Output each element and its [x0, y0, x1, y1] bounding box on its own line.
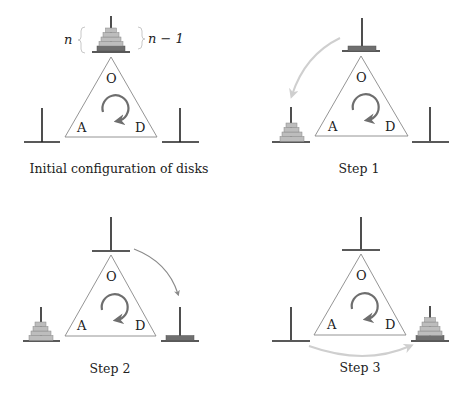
move-arrow-icon	[292, 38, 340, 95]
brace-label-n: n	[64, 32, 72, 47]
peg-destination	[162, 108, 199, 142]
disk	[284, 128, 299, 133]
label-origin: O	[356, 268, 367, 283]
peg-auxiliary	[272, 107, 310, 142]
left-brace-icon	[78, 27, 85, 53]
rotation-arrow-icon	[352, 293, 378, 319]
rotation-arrow-icon	[102, 294, 128, 320]
label-auxiliary: A	[326, 317, 337, 332]
label-destination: D	[135, 120, 145, 135]
peg-destination	[411, 306, 449, 341]
disk	[97, 46, 125, 51]
disk	[348, 46, 376, 51]
peg-origin	[92, 16, 130, 52]
panel-initial: O A D n n − 1 Initial configuration	[24, 16, 208, 176]
label-auxiliary: A	[327, 119, 338, 134]
disk	[422, 322, 438, 327]
label-destination: D	[385, 119, 395, 134]
move-arrow-icon	[309, 346, 410, 356]
caption: Step 2	[90, 361, 131, 376]
disk	[99, 42, 123, 47]
panel-step-2: O A D Step 2	[23, 217, 199, 376]
disk	[280, 137, 304, 142]
label-auxiliary: A	[76, 120, 87, 135]
peg-auxiliary	[24, 108, 60, 142]
peg-auxiliary	[23, 307, 60, 341]
disk	[420, 327, 440, 332]
caption: Step 3	[340, 360, 381, 375]
label-destination: D	[385, 317, 395, 332]
disk	[33, 327, 48, 332]
caption: Step 1	[339, 161, 380, 176]
peg-origin	[92, 217, 130, 251]
label-destination: D	[135, 318, 145, 333]
disk	[103, 33, 119, 38]
panel-step-1: O A D Step 1	[272, 18, 449, 176]
label-origin: O	[106, 71, 117, 86]
disk	[31, 331, 51, 336]
disk	[101, 37, 121, 42]
disk	[418, 331, 442, 336]
move-arrow-icon	[134, 249, 178, 294]
disk	[106, 28, 117, 33]
disk	[166, 336, 194, 341]
peg-origin	[342, 217, 380, 250]
hanoi-diagram: O A D n n − 1 Initial configuration	[0, 0, 476, 394]
right-brace-icon	[138, 27, 145, 49]
peg-destination	[161, 307, 199, 341]
disk	[425, 318, 436, 323]
peg-origin	[342, 18, 380, 51]
disk	[282, 132, 302, 137]
disk	[29, 336, 53, 341]
panel-step-3: O A D Step 3	[272, 217, 449, 375]
disk	[35, 322, 46, 327]
brace-label-n-minus-1: n − 1	[148, 31, 184, 46]
label-origin: O	[106, 269, 117, 284]
disk	[416, 336, 444, 341]
disk	[286, 123, 297, 128]
peg-destination	[412, 107, 449, 142]
label-auxiliary: A	[76, 318, 87, 333]
peg-auxiliary	[272, 307, 310, 341]
rotation-arrow-icon	[102, 95, 128, 121]
rotation-arrow-icon	[353, 94, 379, 120]
caption: Initial configuration of disks	[30, 161, 209, 176]
label-origin: O	[356, 70, 367, 85]
